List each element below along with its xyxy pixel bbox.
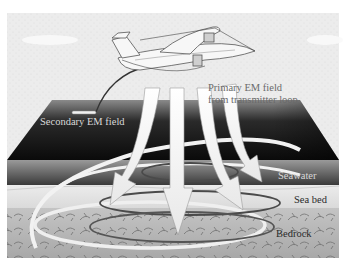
label-primary-field-line2: from transmitter loop (208, 94, 298, 106)
label-secondary-field: Secondary EM field (40, 116, 125, 128)
diagram-canvas (0, 0, 345, 266)
cloud (22, 35, 78, 45)
cloud (307, 35, 343, 45)
em-survey-diagram: Primary EM field from transmitter loop S… (0, 0, 345, 266)
label-seawater: Seawater (278, 170, 316, 182)
label-bedrock: Bedrock (276, 228, 312, 240)
receiver-bird (72, 111, 96, 114)
label-sea-bed: Sea bed (294, 194, 327, 206)
label-primary-field: Primary EM field from transmitter loop (208, 82, 298, 106)
label-primary-field-line1: Primary EM field (208, 82, 298, 94)
